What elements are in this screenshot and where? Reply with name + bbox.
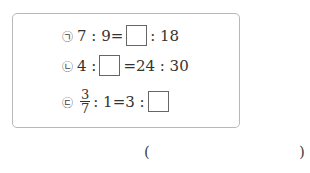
answer-blank-c[interactable] — [148, 91, 169, 112]
item-a: ㉠ 7 : 9= : 18 — [62, 25, 179, 46]
marker-b-icon: ㉡ — [62, 58, 73, 74]
marker-c-icon: ㉢ — [62, 94, 73, 110]
item-b: ㉡ 4 : =24 : 30 — [62, 55, 189, 76]
fraction-denominator: 7 — [81, 102, 89, 115]
item-a-right: : 18 — [150, 27, 179, 45]
fraction: 3 7 — [80, 88, 90, 115]
answer-field[interactable] — [156, 143, 296, 163]
marker-a-icon: ㉠ — [62, 28, 73, 44]
item-c-right: : 1=3 : — [93, 93, 144, 111]
answer-blank-a[interactable] — [126, 25, 147, 46]
item-c: ㉢ 3 7 : 1=3 : — [62, 88, 172, 115]
item-b-right: =24 : 30 — [123, 57, 188, 75]
answer-paren-close: ) — [299, 143, 305, 161]
item-b-left: 4 : — [77, 57, 96, 75]
fraction-numerator: 3 — [80, 88, 90, 102]
item-a-left: 7 : 9= — [77, 27, 123, 45]
answer-paren-open: ( — [144, 143, 150, 161]
answer-blank-b[interactable] — [99, 55, 120, 76]
